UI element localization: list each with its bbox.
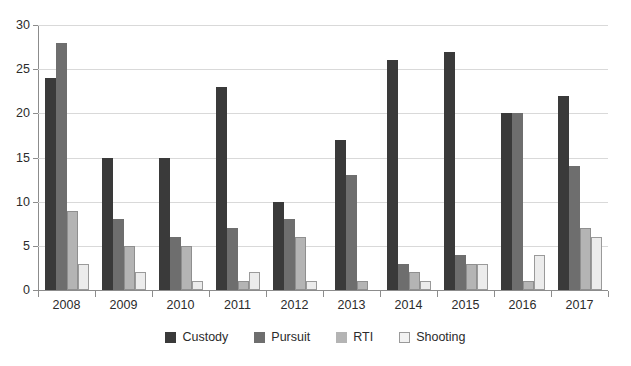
bar-group-2009 [95, 25, 152, 290]
plot-area [38, 25, 608, 290]
bar-rti-2009[interactable] [124, 246, 135, 290]
legend-item-shooting[interactable]: Shooting [399, 330, 465, 344]
x-tick-label-2015: 2015 [437, 296, 494, 316]
x-axis-tick [494, 291, 495, 297]
y-axis-tick [33, 158, 38, 159]
legend-item-rti[interactable]: RTI [336, 330, 373, 344]
bar-group-2013 [323, 25, 380, 290]
bar-groups [38, 25, 608, 290]
x-tick-label-2017: 2017 [551, 296, 608, 316]
y-axis-labels: 051015202530 [0, 0, 36, 310]
x-axis-tick [95, 291, 96, 297]
x-axis-tick [266, 291, 267, 297]
x-tick-label-2011: 2011 [209, 296, 266, 316]
bar-pursuit-2009[interactable] [113, 219, 124, 290]
bar-custody-2016[interactable] [501, 113, 512, 290]
bar-pursuit-2011[interactable] [227, 228, 238, 290]
bar-pursuit-2015[interactable] [455, 255, 466, 290]
y-axis-tick [33, 113, 38, 114]
bar-shooting-2008[interactable] [78, 264, 89, 291]
x-tick-label-2014: 2014 [380, 296, 437, 316]
x-tick-label-2009: 2009 [95, 296, 152, 316]
x-tick-label-2012: 2012 [266, 296, 323, 316]
legend-item-custody[interactable]: Custody [165, 330, 228, 344]
bar-group-2010 [152, 25, 209, 290]
x-axis-tick [152, 291, 153, 297]
bar-rti-2010[interactable] [181, 246, 192, 290]
plot-wrapper: 051015202530 200820092010201120122013201… [0, 0, 631, 310]
bar-shooting-2010[interactable] [192, 281, 203, 290]
y-axis-tick [33, 246, 38, 247]
bar-pursuit-2008[interactable] [56, 43, 67, 290]
bar-custody-2011[interactable] [216, 87, 227, 290]
bar-custody-2015[interactable] [444, 52, 455, 291]
x-tick-label-2013: 2013 [323, 296, 380, 316]
bar-chart: 051015202530 200820092010201120122013201… [0, 0, 631, 366]
y-tick-label: 20 [16, 107, 30, 120]
bar-rti-2008[interactable] [67, 211, 78, 291]
bar-custody-2009[interactable] [102, 158, 113, 291]
y-tick-label: 0 [23, 284, 30, 297]
legend-item-pursuit[interactable]: Pursuit [254, 330, 310, 344]
bar-shooting-2016[interactable] [534, 255, 545, 290]
x-axis-labels: 2008200920102011201220132014201520162017 [38, 296, 608, 316]
legend-label: Pursuit [271, 330, 310, 344]
bar-custody-2014[interactable] [387, 60, 398, 290]
y-tick-label: 10 [16, 195, 30, 208]
legend-swatch-rti [336, 332, 347, 343]
x-axis-tick [323, 291, 324, 297]
legend-swatch-custody [165, 332, 176, 343]
bar-pursuit-2016[interactable] [512, 113, 523, 290]
legend-swatch-pursuit [254, 332, 265, 343]
bar-shooting-2017[interactable] [591, 237, 602, 290]
y-axis-tick [33, 25, 38, 26]
bar-pursuit-2013[interactable] [346, 175, 357, 290]
bar-group-2017 [551, 25, 608, 290]
y-tick-label: 5 [23, 240, 30, 253]
bar-rti-2016[interactable] [523, 281, 534, 290]
bar-rti-2017[interactable] [580, 228, 591, 290]
x-axis-tick [380, 291, 381, 297]
x-tick-label-2016: 2016 [494, 296, 551, 316]
bar-custody-2012[interactable] [273, 202, 284, 290]
bar-custody-2017[interactable] [558, 96, 569, 290]
bar-rti-2012[interactable] [295, 237, 306, 290]
x-axis-tick [608, 291, 609, 297]
bar-rti-2011[interactable] [238, 281, 249, 290]
bar-pursuit-2010[interactable] [170, 237, 181, 290]
bar-shooting-2009[interactable] [135, 272, 146, 290]
bar-custody-2013[interactable] [335, 140, 346, 290]
bar-shooting-2012[interactable] [306, 281, 317, 290]
x-axis-tick [38, 291, 39, 297]
bar-group-2012 [266, 25, 323, 290]
bar-custody-2010[interactable] [159, 158, 170, 291]
legend-label: Custody [182, 330, 228, 344]
bar-rti-2015[interactable] [466, 264, 477, 291]
bar-group-2015 [437, 25, 494, 290]
x-tick-label-2008: 2008 [38, 296, 95, 316]
bar-group-2008 [38, 25, 95, 290]
bar-group-2014 [380, 25, 437, 290]
bar-rti-2014[interactable] [409, 272, 420, 290]
y-tick-label: 25 [16, 63, 30, 76]
bar-pursuit-2012[interactable] [284, 219, 295, 290]
bar-shooting-2015[interactable] [477, 264, 488, 291]
bar-custody-2008[interactable] [45, 78, 56, 290]
bar-group-2016 [494, 25, 551, 290]
bar-shooting-2014[interactable] [420, 281, 431, 290]
legend-swatch-shooting [399, 332, 410, 343]
y-axis-tick [33, 202, 38, 203]
x-tick-label-2010: 2010 [152, 296, 209, 316]
bar-pursuit-2014[interactable] [398, 264, 409, 291]
y-tick-label: 15 [16, 151, 30, 164]
x-axis-tick [551, 291, 552, 297]
legend-label: RTI [353, 330, 373, 344]
bar-group-2011 [209, 25, 266, 290]
y-tick-label: 30 [16, 19, 30, 32]
x-axis-tick [209, 291, 210, 297]
bar-shooting-2011[interactable] [249, 272, 260, 290]
y-axis-tick [33, 69, 38, 70]
bar-pursuit-2017[interactable] [569, 166, 580, 290]
bar-rti-2013[interactable] [357, 281, 368, 290]
x-axis-tick [437, 291, 438, 297]
